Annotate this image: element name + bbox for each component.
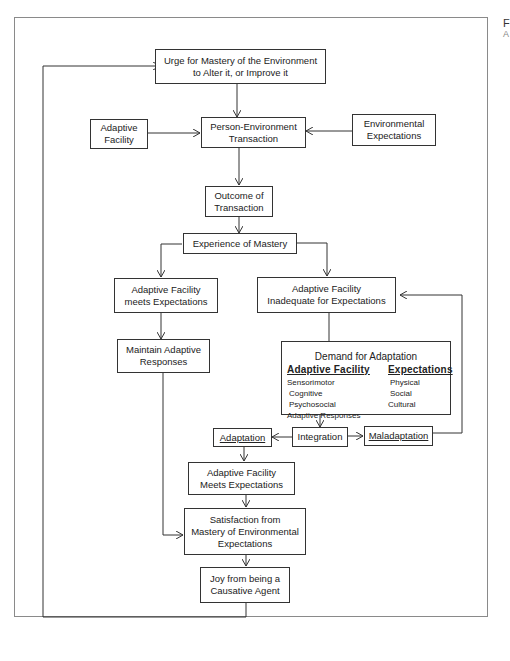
- node-text-line: to Alter it, or Improve it: [193, 67, 288, 79]
- expectations-header: Expectations: [388, 364, 453, 375]
- node-integration: Integration: [292, 427, 348, 447]
- node-text-line: Person-Environment: [210, 121, 297, 133]
- node-joy-causative-agent: Joy from being a Causative Agent: [200, 567, 290, 603]
- node-urge-for-mastery: Urge for Mastery of the Environment to A…: [155, 49, 326, 84]
- node-text-line: Experience of Mastery: [193, 238, 288, 250]
- node-text-line: Integration: [298, 431, 343, 443]
- node-text-line: Adaptation: [220, 432, 265, 444]
- node-text-line: Adaptive Facility: [207, 467, 276, 479]
- adaptive-facility-header: Adaptive Facility: [287, 364, 370, 375]
- node-text-line: Satisfaction from: [210, 514, 281, 526]
- node-maintain-adaptive-responses: Maintain Adaptive Responses: [117, 339, 210, 373]
- node-satisfaction-from-mastery: Satisfaction from Mastery of Environment…: [184, 508, 306, 555]
- node-text-line: Expectations: [367, 130, 421, 142]
- node-text-line: Environmental: [364, 118, 425, 130]
- node-text-line: Joy from being a: [210, 573, 280, 585]
- node-text-line: Adaptive Facility: [292, 283, 361, 295]
- node-environmental-expectations: Environmental Expectations: [352, 114, 436, 146]
- list-item: Cultural: [388, 399, 453, 410]
- node-adaptive-facility-meets-expectations: Adaptive Facility meets Expectations: [114, 278, 218, 313]
- node-adaptive-facility: Adaptive Facility: [90, 119, 148, 149]
- node-text-line: Facility: [104, 134, 134, 146]
- node-person-environment-transaction: Person-Environment Transaction: [201, 117, 306, 148]
- node-text-line: Inadequate for Expectations: [267, 295, 385, 307]
- node-adaptive-facility-inadequate: Adaptive Facility Inadequate for Expecta…: [257, 277, 396, 313]
- list-item: Adaptive Responses: [287, 410, 370, 421]
- node-text-line: Transaction: [229, 133, 278, 145]
- node-text-line: Meets Expectations: [200, 479, 283, 491]
- node-text-line: Maladaptation: [369, 430, 429, 442]
- demand-title: Demand for Adaptation: [282, 351, 450, 362]
- adaptive-facility-column: Adaptive Facility Sensorimotor Cognitive…: [287, 364, 370, 421]
- node-outcome-of-transaction: Outcome of Transaction: [205, 186, 273, 217]
- node-text-line: Expectations: [218, 538, 272, 550]
- list-item: Psychosocial: [287, 399, 370, 410]
- list-item: Sensorimotor: [287, 377, 370, 388]
- list-item: Cognitive: [287, 388, 370, 399]
- node-text-line: Transaction: [214, 202, 263, 214]
- node-text-line: Adaptive: [101, 122, 138, 134]
- list-item: Physical: [388, 377, 453, 388]
- node-text-line: Causative Agent: [210, 585, 279, 597]
- node-demand-for-adaptation: Demand for Adaptation Adaptive Facility …: [281, 341, 451, 415]
- node-adaptive-facility-meets-expectations-2: Adaptive Facility Meets Expectations: [188, 462, 295, 495]
- node-text-line: Urge for Mastery of the Environment: [164, 55, 317, 67]
- node-maladaptation: Maladaptation: [364, 426, 433, 446]
- node-text-line: Mastery of Environmental: [191, 526, 299, 538]
- node-text-line: Maintain Adaptive: [126, 344, 201, 356]
- node-adaptation: Adaptation: [213, 428, 272, 447]
- node-text-line: Responses: [140, 356, 188, 368]
- list-item: Social: [388, 388, 453, 399]
- node-experience-of-mastery: Experience of Mastery: [183, 233, 297, 254]
- expectations-column: Expectations Physical Social Cultural: [388, 364, 453, 410]
- node-text-line: Outcome of: [214, 190, 263, 202]
- node-text-line: meets Expectations: [125, 296, 208, 308]
- node-text-line: Adaptive Facility: [131, 284, 200, 296]
